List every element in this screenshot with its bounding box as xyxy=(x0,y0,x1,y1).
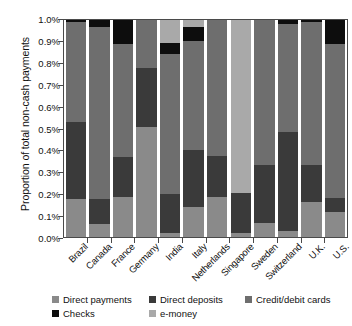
legend-item[interactable]: e-money xyxy=(149,309,197,319)
bar-segment[interactable] xyxy=(301,22,321,165)
bar-column[interactable] xyxy=(160,20,180,237)
bar-column[interactable] xyxy=(183,20,203,237)
bar-segment[interactable] xyxy=(66,22,86,122)
x-axis-tick-mark xyxy=(324,238,325,243)
bar-segment[interactable] xyxy=(301,165,321,202)
legend-item[interactable]: Credit/debit cards xyxy=(245,295,330,305)
bar-segment[interactable] xyxy=(183,41,203,151)
bar-column[interactable] xyxy=(113,20,133,237)
bar-segment[interactable] xyxy=(160,54,180,194)
legend-label: Credit/debit cards xyxy=(256,295,330,305)
bar-segment[interactable] xyxy=(160,43,180,54)
y-axis-tick-label: 1.0% xyxy=(24,14,60,25)
y-axis-tick-mark xyxy=(58,63,63,64)
bars-container xyxy=(64,20,347,237)
x-axis-tick-mark xyxy=(111,238,112,243)
x-axis-tick-label: U.K. xyxy=(307,241,327,261)
stacked-bar-chart: Proportion of total non-cash payments 0.… xyxy=(0,0,352,326)
bar-segment[interactable] xyxy=(113,197,133,237)
legend-label: Direct payments xyxy=(63,295,132,305)
legend-label: Direct deposits xyxy=(160,295,223,305)
bar-segment[interactable] xyxy=(89,27,109,200)
y-axis-tick-label: 0.0% xyxy=(24,233,60,244)
y-axis-tick-label: 0.7% xyxy=(24,79,60,90)
bar-segment[interactable] xyxy=(207,20,227,156)
y-axis-tick-labels: 0.0%0.1%0.2%0.3%0.4%0.5%0.6%0.7%0.8%0.9%… xyxy=(24,19,60,238)
y-axis-tick-mark xyxy=(58,19,63,20)
bar-segment[interactable] xyxy=(136,20,156,68)
bar-segment[interactable] xyxy=(231,193,251,233)
chart-legend: Direct paymentsDirect depositsCredit/deb… xyxy=(52,295,352,323)
bar-segment[interactable] xyxy=(278,24,298,131)
x-axis-tick-mark xyxy=(87,238,88,243)
legend-label: e-money xyxy=(160,309,197,319)
bar-column[interactable] xyxy=(301,20,321,237)
bar-segment[interactable] xyxy=(66,199,86,237)
y-axis-tick-mark xyxy=(58,85,63,86)
bar-segment[interactable] xyxy=(207,197,227,237)
bar-segment[interactable] xyxy=(231,233,251,237)
y-axis-tick-label: 0.9% xyxy=(24,35,60,46)
bar-column[interactable] xyxy=(325,20,345,237)
x-axis-tick-mark xyxy=(277,238,278,243)
y-axis-tick-mark xyxy=(58,129,63,130)
bar-segment[interactable] xyxy=(160,20,180,43)
bar-column[interactable] xyxy=(278,20,298,237)
x-axis-tick-mark xyxy=(253,238,254,243)
legend-swatch-icon xyxy=(52,296,59,303)
bar-segment[interactable] xyxy=(89,199,109,224)
legend-label: Checks xyxy=(63,309,95,319)
bar-column[interactable] xyxy=(136,20,156,237)
y-axis-tick-mark xyxy=(58,194,63,195)
bar-segment[interactable] xyxy=(113,44,133,157)
x-axis-tick-label: India xyxy=(163,241,185,263)
bar-segment[interactable] xyxy=(301,202,321,237)
y-axis-tick-mark xyxy=(58,216,63,217)
legend-item[interactable]: Checks xyxy=(52,309,95,319)
y-axis-tick-mark xyxy=(58,238,63,239)
bar-segment[interactable] xyxy=(325,20,345,44)
bar-segment[interactable] xyxy=(136,68,156,128)
y-axis-tick-mark xyxy=(58,41,63,42)
bar-segment[interactable] xyxy=(66,122,86,199)
bar-segment[interactable] xyxy=(183,27,203,41)
legend-swatch-icon xyxy=(52,310,59,317)
bar-segment[interactable] xyxy=(254,223,274,237)
bar-segment[interactable] xyxy=(278,231,298,238)
x-axis-tick-label: U.S. xyxy=(331,241,351,261)
y-axis-tick-label: 0.5% xyxy=(24,123,60,134)
bar-segment[interactable] xyxy=(183,207,203,237)
bar-segment[interactable] xyxy=(160,233,180,237)
y-axis-tick-mark xyxy=(58,107,63,108)
y-axis-tick-label: 0.3% xyxy=(24,167,60,178)
bar-column[interactable] xyxy=(89,20,109,237)
x-axis-tick-mark xyxy=(182,238,183,243)
bar-segment[interactable] xyxy=(207,156,227,197)
bar-segment[interactable] xyxy=(160,194,180,233)
legend-item[interactable]: Direct payments xyxy=(52,295,132,305)
bar-segment[interactable] xyxy=(231,20,251,193)
legend-swatch-icon xyxy=(149,296,156,303)
x-axis-tick-mark xyxy=(206,238,207,243)
bar-segment[interactable] xyxy=(325,198,345,212)
bar-segment[interactable] xyxy=(254,20,274,165)
x-axis-tick-label: Italy xyxy=(189,241,208,260)
x-axis-tick-labels: BrazilCanadaFranceGermanyIndiaItalyNethe… xyxy=(63,241,348,293)
bar-segment[interactable] xyxy=(325,44,345,198)
bar-column[interactable] xyxy=(254,20,274,237)
bar-segment[interactable] xyxy=(325,212,345,237)
bar-segment[interactable] xyxy=(136,127,156,237)
x-axis-tick-mark xyxy=(158,238,159,243)
bar-segment[interactable] xyxy=(278,132,298,231)
bar-segment[interactable] xyxy=(254,165,274,223)
y-axis-tick-mark xyxy=(58,150,63,151)
y-axis-tick-label: 0.2% xyxy=(24,189,60,200)
bar-column[interactable] xyxy=(66,20,86,237)
bar-segment[interactable] xyxy=(113,20,133,44)
bar-segment[interactable] xyxy=(89,224,109,237)
legend-item[interactable]: Direct deposits xyxy=(149,295,223,305)
bar-segment[interactable] xyxy=(113,157,133,197)
bar-column[interactable] xyxy=(207,20,227,237)
bar-column[interactable] xyxy=(231,20,251,237)
bar-segment[interactable] xyxy=(183,150,203,206)
